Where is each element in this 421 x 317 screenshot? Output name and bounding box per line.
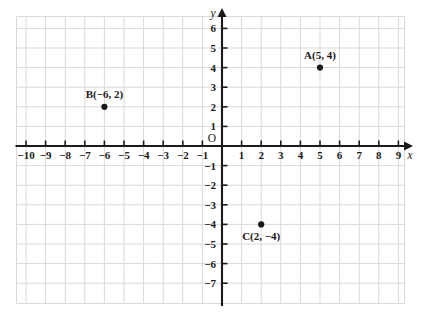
data-point-b	[101, 104, 107, 110]
x-axis-tick-label: −5	[118, 149, 130, 161]
y-axis-tick-label: −7	[204, 277, 216, 289]
y-axis-tick-label: 4	[211, 62, 217, 74]
y-axis-tick-label: −1	[204, 160, 216, 172]
x-axis-tick-label: −9	[40, 149, 52, 161]
y-axis-tick-label: −4	[204, 218, 216, 230]
data-point-label-c: C(2, −4)	[242, 230, 280, 243]
x-axis-tick-label: 8	[376, 149, 382, 161]
axis-tick-labels: −10−9−8−7−6−5−4−3−2−1123456789654321−1−2…	[17, 22, 401, 289]
y-axis-arrowhead	[218, 8, 227, 17]
y-axis-tick-label: 3	[211, 81, 217, 93]
data-point-c	[258, 221, 264, 227]
y-axis-tick-label: 1	[211, 120, 217, 132]
x-axis-tick-label: 4	[298, 149, 304, 161]
x-axis-tick-label: 7	[356, 149, 362, 161]
x-axis-tick-label: 5	[317, 149, 323, 161]
origin-label: O	[208, 132, 216, 144]
x-axis-tick-label: −8	[59, 149, 71, 161]
data-point-a	[317, 65, 323, 71]
x-axis-tick-label: −3	[157, 149, 169, 161]
x-axis-tick-label: −10	[17, 149, 35, 161]
y-axis-tick-label: −2	[204, 179, 216, 191]
x-axis-tick-label: 9	[396, 149, 402, 161]
y-axis-tick-label: −3	[204, 199, 216, 211]
data-point-label-a: A(5, 4)	[304, 49, 336, 62]
data-point-label-b: B(−6, 2)	[86, 88, 124, 101]
x-axis-tick-label: 3	[278, 149, 284, 161]
y-axis-tick-label: −6	[204, 258, 216, 270]
x-axis-tick-label: 2	[258, 149, 264, 161]
coordinate-plane-figure: −10−9−8−7−6−5−4−3−2−1123456789654321−1−2…	[0, 0, 421, 317]
x-axis-tick-label: −7	[79, 149, 91, 161]
y-axis-tick-label: −5	[204, 238, 216, 250]
x-axis-tick-label: 6	[337, 149, 343, 161]
axis-names: Oxy	[208, 7, 414, 161]
y-axis-tick-label: 6	[211, 22, 217, 34]
y-axis-name: y	[209, 7, 216, 20]
x-axis-tick-label: −6	[99, 149, 111, 161]
x-axis-tick-label: −4	[138, 149, 150, 161]
x-axis-tick-label: −2	[177, 149, 189, 161]
x-axis-tick-label: 1	[239, 149, 245, 161]
x-axis-name: x	[406, 149, 413, 161]
coordinate-plane-svg: −10−9−8−7−6−5−4−3−2−1123456789654321−1−2…	[0, 0, 421, 317]
y-axis-tick-label: 2	[211, 101, 217, 113]
y-axis-tick-label: 5	[211, 42, 217, 54]
